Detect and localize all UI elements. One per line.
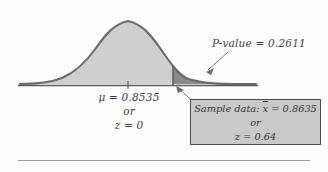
normal-curve-figure: P-value = 0.2611 μ = 0.8535 or z = 0 Sam… [0, 0, 328, 172]
bottom-divider [18, 160, 310, 161]
x-bar-symbol: x [263, 102, 269, 116]
mu-value-label: μ = 0.8535 [83, 90, 175, 104]
sample-data-zscore-label: z = 0.64 [191, 130, 320, 144]
mu-or-label: or [83, 104, 175, 118]
curve-body-fill [20, 21, 173, 84]
sample-data-line-1: Sample data: x = 0.8635 [191, 102, 320, 116]
pvalue-leader-line [208, 52, 228, 70]
mu-zscore-label: z = 0 [83, 118, 175, 132]
pvalue-annotation: P-value = 0.2611 [212, 37, 306, 49]
sample-data-box: Sample data: x = 0.8635 or z = 0.64 [190, 99, 321, 145]
pvalue-arrowhead [206, 68, 214, 75]
curve-tail-fill [173, 66, 258, 84]
sample-data-prefix: Sample data: [194, 103, 262, 114]
sample-data-or-label: or [191, 116, 320, 130]
distribution-chart [0, 0, 328, 172]
mean-annotation: μ = 0.8535 or z = 0 [83, 90, 175, 132]
sample-data-value: = 0.8635 [268, 103, 317, 114]
